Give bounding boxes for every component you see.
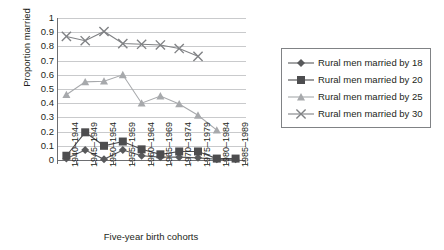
legend-item[interactable]: Rural men married by 30 bbox=[287, 105, 423, 122]
x-tick bbox=[151, 160, 152, 164]
data-point-triangle bbox=[138, 99, 146, 106]
data-point-cross bbox=[62, 32, 71, 41]
x-tick bbox=[226, 160, 227, 164]
x-tick bbox=[189, 160, 190, 164]
y-tick-label: 0.2 bbox=[28, 127, 54, 136]
y-tick-label: 0.6 bbox=[28, 70, 54, 79]
data-point-triangle bbox=[175, 100, 183, 107]
data-point-cross bbox=[193, 52, 202, 61]
x-tick bbox=[76, 160, 77, 164]
data-point-diamond bbox=[81, 146, 89, 154]
data-point-square bbox=[100, 142, 108, 150]
data-point-square bbox=[81, 128, 89, 136]
chart-container: Proportion married 10.90.80.70.60.50.40.… bbox=[0, 0, 444, 250]
y-tick-label: 0.4 bbox=[28, 98, 54, 107]
data-point-diamond bbox=[297, 59, 305, 67]
legend-item[interactable]: Rural men married by 25 bbox=[287, 88, 423, 105]
x-tick bbox=[245, 160, 246, 164]
data-point-triangle bbox=[194, 111, 202, 118]
data-point-square bbox=[119, 138, 127, 146]
data-point-cross bbox=[81, 36, 90, 45]
y-tick-label: 0.1 bbox=[28, 141, 54, 150]
legend-marker-triangle-icon bbox=[287, 90, 315, 104]
y-tick-label: 0.3 bbox=[28, 112, 54, 121]
series-line bbox=[66, 31, 198, 56]
y-tick-label: 0.5 bbox=[28, 84, 54, 93]
x-tick bbox=[170, 160, 171, 164]
data-point-square bbox=[213, 155, 221, 163]
x-tick bbox=[132, 160, 133, 164]
data-point-triangle bbox=[62, 91, 70, 98]
y-tick-label: 0.9 bbox=[28, 27, 54, 36]
x-tick bbox=[95, 160, 96, 164]
y-tick-label: 1 bbox=[28, 13, 54, 22]
data-point-cross bbox=[99, 27, 108, 36]
legend-marker-diamond-icon bbox=[287, 56, 315, 70]
data-point-square bbox=[175, 147, 183, 155]
data-point-square bbox=[297, 76, 305, 84]
legend-label: Rural men married by 25 bbox=[315, 91, 423, 102]
legend-label: Rural men married by 18 bbox=[315, 57, 423, 68]
legend-label: Rural men married by 30 bbox=[315, 108, 423, 119]
x-tick bbox=[207, 160, 208, 164]
y-tick-label: 0.8 bbox=[28, 41, 54, 50]
legend-item[interactable]: Rural men married by 20 bbox=[287, 71, 423, 88]
x-tick bbox=[57, 160, 58, 164]
data-point-triangle bbox=[156, 92, 164, 99]
data-point-square bbox=[194, 147, 202, 155]
y-axis-tick-labels: 10.90.80.70.60.50.40.30.20.10 bbox=[26, 0, 54, 250]
data-point-diamond bbox=[100, 155, 108, 163]
x-tick bbox=[113, 160, 114, 164]
data-point-square bbox=[232, 155, 240, 163]
data-point-triangle bbox=[119, 71, 127, 78]
y-tick-label: 0 bbox=[28, 155, 54, 164]
legend-marker-square-icon bbox=[287, 73, 315, 87]
data-point-square bbox=[138, 145, 146, 153]
data-point-diamond bbox=[119, 146, 127, 154]
x-axis-title: Five-year birth cohorts bbox=[57, 231, 245, 242]
data-point-cross bbox=[175, 44, 184, 53]
y-tick-label: 0.7 bbox=[28, 56, 54, 65]
legend-label: Rural men married by 20 bbox=[315, 74, 423, 85]
chart-legend: Rural men married by 18Rural men married… bbox=[281, 48, 431, 128]
legend-item[interactable]: Rural men married by 18 bbox=[287, 54, 423, 71]
legend-marker-cross-icon bbox=[287, 107, 315, 121]
